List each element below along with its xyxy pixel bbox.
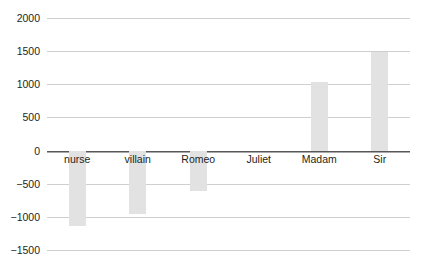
y-axis-tick-label: 500 xyxy=(22,112,40,123)
y-axis-tick-label: 1500 xyxy=(17,46,40,57)
x-axis-category-label: villain xyxy=(125,154,151,165)
bar-chart: 2000150010005000−500−1000−1500 nursevill… xyxy=(0,0,422,264)
gridline xyxy=(47,51,410,52)
y-axis-tick-label: −500 xyxy=(16,178,40,189)
gridline xyxy=(47,18,410,19)
bar xyxy=(371,52,388,150)
gridline xyxy=(47,217,410,218)
zero-line xyxy=(47,151,410,152)
y-axis-tick-label: 0 xyxy=(34,145,40,156)
gridline xyxy=(47,184,410,185)
y-axis-tick-label: −1000 xyxy=(11,212,41,223)
bar xyxy=(311,82,328,151)
x-axis-category-label: Juliet xyxy=(246,154,271,165)
gridline xyxy=(47,117,410,118)
x-axis-category-label: Sir xyxy=(373,154,386,165)
y-axis-tick-label: −1500 xyxy=(11,245,41,256)
y-axis-tick-label: 2000 xyxy=(17,13,40,24)
plot-area: 2000150010005000−500−1000−1500 nursevill… xyxy=(47,18,410,250)
gridline xyxy=(47,84,410,85)
x-axis-category-label: Romeo xyxy=(181,154,215,165)
chart-title xyxy=(0,0,422,3)
gridline xyxy=(47,250,410,251)
x-axis-category-label: nurse xyxy=(64,154,90,165)
x-axis-category-label: Madam xyxy=(302,154,337,165)
y-axis-tick-label: 1000 xyxy=(17,79,40,90)
